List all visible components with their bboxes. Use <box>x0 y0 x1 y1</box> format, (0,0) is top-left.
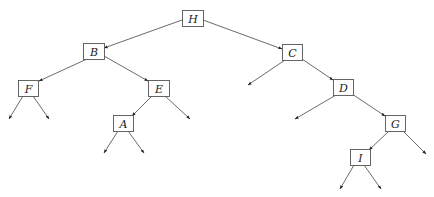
edge-H-to-C <box>203 20 282 49</box>
tree-node-C: C <box>283 45 303 61</box>
tree-node-B: B <box>84 44 105 60</box>
edge-E-to-A <box>132 96 152 116</box>
tree-node-A: A <box>114 116 134 132</box>
edge-B-to-F <box>39 59 87 81</box>
tree-node-I: I <box>351 150 371 166</box>
nodes-layer: HBCFEDAGI <box>19 11 406 166</box>
edge-I-to-null-arrow-icon <box>340 165 354 189</box>
edge-F-to-null-arrow-icon <box>33 96 49 119</box>
node-label: D <box>338 82 348 95</box>
node-label: E <box>154 83 163 96</box>
tree-node-F: F <box>19 81 39 97</box>
node-label: B <box>89 46 98 59</box>
edge-D-to-null-arrow-icon <box>295 95 336 119</box>
edge-C-to-D <box>302 59 333 80</box>
tree-node-G: G <box>386 116 406 132</box>
edge-G-to-I <box>369 131 389 150</box>
binary-tree-diagram: HBCFEDAGI <box>0 0 434 197</box>
node-label: G <box>391 118 400 131</box>
edge-D-to-G <box>352 94 385 116</box>
edge-I-to-null-arrow-icon <box>364 165 381 189</box>
edge-B-to-E <box>104 56 148 81</box>
edge-C-to-null-arrow-icon <box>248 60 285 85</box>
tree-node-D: D <box>334 80 354 96</box>
edge-A-to-null-arrow-icon <box>128 131 144 153</box>
edge-G-to-null-arrow-icon <box>403 131 426 154</box>
edge-F-to-null-arrow-icon <box>9 96 23 119</box>
node-label: I <box>357 152 363 165</box>
tree-node-H: H <box>183 11 204 27</box>
edge-H-to-B <box>104 20 182 48</box>
edge-A-to-null-arrow-icon <box>104 131 118 153</box>
edge-E-to-null-arrow-icon <box>165 96 190 119</box>
node-label: A <box>119 118 128 131</box>
tree-node-E: E <box>149 81 170 97</box>
node-label: F <box>24 83 33 96</box>
node-label: C <box>288 47 297 60</box>
node-label: H <box>187 13 198 26</box>
